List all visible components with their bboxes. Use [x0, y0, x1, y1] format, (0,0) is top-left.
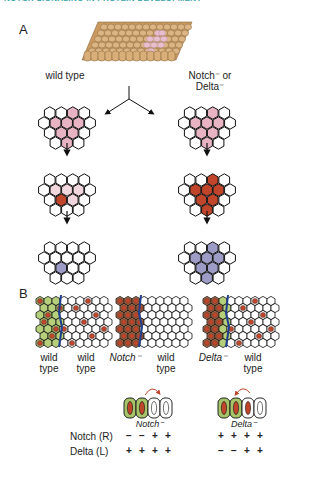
hex-cluster-wt-2 [39, 174, 96, 216]
delta-ligand-label: Delta (L) [70, 446, 108, 457]
wild-type-label: wild type [30, 70, 100, 81]
cells-delta-caption: Delta⁻ [222, 419, 266, 430]
b3-right-wild: wild [240, 352, 266, 363]
notch-receptor-label: Notch (R) [70, 431, 113, 442]
cells-notch-caption: Notch⁻ [128, 419, 172, 430]
cell-row-delta-mutant [218, 389, 266, 418]
b1-right-wild: wild [73, 352, 99, 363]
sign-cell: + [165, 430, 171, 441]
sign-cell: − [139, 430, 145, 441]
b1-right-type: type [73, 363, 99, 374]
hex-cluster-wt-1 [39, 107, 96, 149]
sign-cell: + [257, 445, 263, 456]
hex-cluster-wt-3 [39, 242, 96, 284]
mutant-label-line1: Notch⁻ or [180, 70, 240, 81]
sign-cell: + [165, 445, 171, 456]
b2-right-wild: wild [153, 352, 179, 363]
mutant-label-line2: Delta⁻ [180, 81, 240, 92]
sign-cell: + [152, 430, 158, 441]
mosaic-notch-wt [116, 295, 192, 348]
sign-cell: + [126, 445, 132, 456]
epithelium-sheet-icon [82, 22, 192, 61]
sign-cell: + [231, 430, 237, 441]
hex-cluster-mut-2 [179, 174, 236, 216]
b3-delta-mutant-label: Delta⁻ [197, 352, 229, 363]
hex-cluster-mut-1 [179, 107, 236, 149]
b1-left-type: type [36, 363, 62, 374]
sign-cell: − [126, 430, 132, 441]
sign-cell: − [218, 445, 224, 456]
b1-left-wild: wild [36, 352, 62, 363]
mosaic-delta-wt [203, 295, 279, 348]
branch-arrows-icon [107, 86, 152, 113]
sign-cell: + [139, 445, 145, 456]
sign-cell: + [244, 430, 250, 441]
b2-right-type: type [153, 363, 179, 374]
cell-row-notch-mutant [124, 389, 172, 418]
b2-notch-mutant-label: Notch⁻ [108, 352, 142, 363]
sign-cell: + [218, 430, 224, 441]
sign-cell: + [257, 430, 263, 441]
hex-cluster-mut-3 [179, 242, 236, 284]
sign-cell: − [231, 445, 237, 456]
b3-right-type: type [240, 363, 266, 374]
sign-cell: + [244, 445, 250, 456]
mosaic-wt-wt [36, 295, 112, 348]
sign-cell: + [152, 445, 158, 456]
